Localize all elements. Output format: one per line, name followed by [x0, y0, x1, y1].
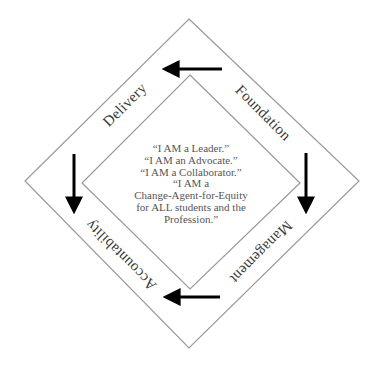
center-statement: “I AM a Leader.” “I AM an Advocate.” “I …: [116, 143, 266, 226]
center-line: Profession.”: [116, 213, 266, 225]
center-line: “I AM an Advocate.”: [116, 155, 266, 167]
